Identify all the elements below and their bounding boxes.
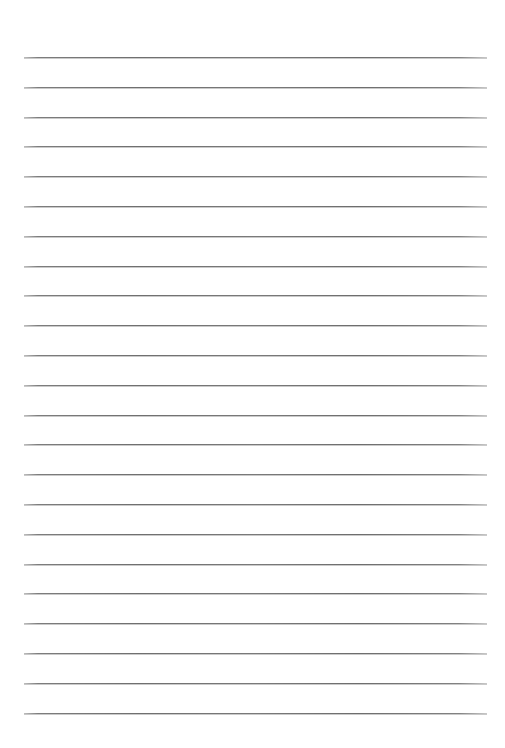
ruled-line [24,325,487,326]
ruled-line [24,444,487,445]
ruled-line [24,295,487,296]
ruled-line [24,146,487,147]
ruled-line [24,176,487,177]
ruled-line [24,385,487,386]
ruled-line [24,266,487,267]
ruled-line [24,504,487,505]
ruled-line [24,87,487,88]
ruled-line [24,117,487,118]
ruled-line [24,355,487,356]
ruled-writing-area[interactable] [0,0,505,748]
ruled-line [24,713,487,714]
ruled-line [24,564,487,565]
ruled-line [24,415,487,416]
ruled-line [24,653,487,654]
ruled-line [24,236,487,237]
ruled-line [24,534,487,535]
lined-paper-page [0,0,505,748]
ruled-line [24,57,487,58]
ruled-line [24,593,487,594]
ruled-line [24,683,487,684]
ruled-line [24,206,487,207]
ruled-line [24,623,487,624]
ruled-line [24,474,487,475]
